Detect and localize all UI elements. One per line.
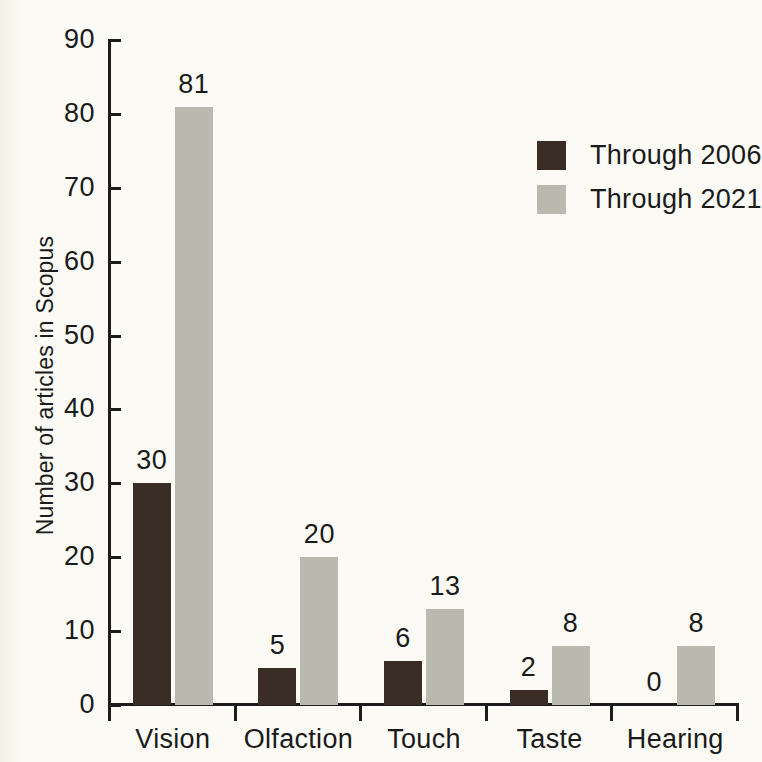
y-axis-tick-label: 0 xyxy=(39,691,95,718)
y-axis-tick-label: 10 xyxy=(39,617,95,644)
bar[interactable] xyxy=(677,646,715,705)
y-axis-tick-label: 50 xyxy=(39,322,95,349)
bar-value-label: 20 xyxy=(279,521,359,548)
x-axis-tick-mark xyxy=(234,703,237,721)
y-axis-tick-mark xyxy=(108,556,121,559)
legend-label: Through 2006 xyxy=(590,142,762,169)
y-axis-tick-mark xyxy=(108,408,121,411)
bar[interactable] xyxy=(133,483,171,705)
x-axis-tick-mark xyxy=(610,703,613,721)
legend-swatch-icon xyxy=(537,141,566,170)
legend-item-through-2006[interactable]: Through 2006 xyxy=(537,133,762,177)
bar-value-label: 8 xyxy=(531,610,611,637)
bar[interactable] xyxy=(426,609,464,705)
legend: Through 2006 Through 2021 xyxy=(537,133,762,221)
bar[interactable] xyxy=(258,668,296,705)
y-axis-tick-label: 70 xyxy=(39,174,95,201)
y-axis-tick-label: 80 xyxy=(39,100,95,127)
y-axis-tick-label: 20 xyxy=(39,543,95,570)
legend-item-through-2021[interactable]: Through 2021 xyxy=(537,177,762,221)
legend-label: Through 2021 xyxy=(590,186,762,213)
y-axis-tick-mark xyxy=(108,261,121,264)
x-axis-tick-mark xyxy=(108,703,111,721)
y-axis-tick-label: 90 xyxy=(39,26,95,53)
x-axis-tick-mark xyxy=(736,703,739,721)
y-axis-tick-mark xyxy=(108,335,121,338)
bar-value-label: 8 xyxy=(656,610,736,637)
y-axis-tick-mark xyxy=(108,482,121,485)
bar[interactable] xyxy=(384,661,422,705)
y-axis-tick-label: 40 xyxy=(39,395,95,422)
y-axis-tick-label: 30 xyxy=(39,469,95,496)
x-axis-category-label: Hearing xyxy=(595,724,755,754)
bar[interactable] xyxy=(552,646,590,705)
x-axis-tick-mark xyxy=(359,703,362,721)
y-axis-tick-mark xyxy=(108,39,121,42)
y-axis-tick-mark xyxy=(108,187,121,190)
bar[interactable] xyxy=(300,557,338,705)
y-axis-tick-label: 60 xyxy=(39,248,95,275)
legend-swatch-icon xyxy=(537,185,566,214)
bar[interactable] xyxy=(510,690,548,705)
x-axis-tick-mark xyxy=(485,703,488,721)
bar[interactable] xyxy=(175,107,213,706)
bar-value-label: 13 xyxy=(405,573,485,600)
bar-value-label: 81 xyxy=(154,71,234,98)
y-axis-line xyxy=(108,40,111,706)
y-axis-tick-mark xyxy=(108,113,121,116)
y-axis-tick-mark xyxy=(108,630,121,633)
